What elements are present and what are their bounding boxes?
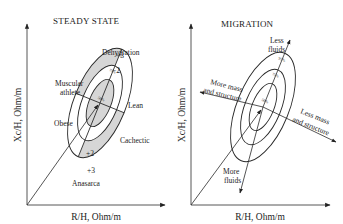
x-axis-label: R/H, Ohm/m bbox=[71, 212, 121, 222]
panel-steady-state: STEADY STATE Xc/H, Ohm/m R/H, Ohm/m 95% … bbox=[13, 16, 165, 222]
label-less-fluids-2: fluids bbox=[268, 45, 285, 54]
x-axis-label: R/H, Ohm/m bbox=[235, 212, 285, 222]
tick-minus2: −2 bbox=[112, 66, 120, 75]
label-cachectic: Cachectic bbox=[120, 136, 150, 145]
panel-migration: MIGRATION Xc/H, Ohm/m R/H, Ohm/m 95% 75%… bbox=[177, 19, 336, 222]
impedance-vector bbox=[191, 110, 261, 205]
label-more-fluids-2: fluids bbox=[224, 176, 241, 185]
tolerance-ellipses: 95% 75% 50% bbox=[37, 23, 164, 183]
label-muscular: Muscular bbox=[55, 79, 84, 88]
panel-title: MIGRATION bbox=[221, 19, 274, 29]
label-more-fluids-1: More bbox=[223, 167, 240, 176]
tick-plus2: +2 bbox=[86, 149, 94, 158]
label-athlete: athlete bbox=[60, 88, 81, 97]
label-anasarca: Anasarca bbox=[72, 179, 101, 188]
label-lean: Lean bbox=[128, 101, 143, 110]
label-less-fluids-1: Less bbox=[270, 36, 284, 45]
y-axis-label: Xc/H, Ohm/m bbox=[177, 87, 187, 142]
label-dehydration: Dehydration bbox=[102, 48, 140, 57]
panel-title: STEADY STATE bbox=[53, 16, 119, 26]
figure: STEADY STATE Xc/H, Ohm/m R/H, Ohm/m 95% … bbox=[0, 0, 343, 224]
tick-plus3: +3 bbox=[87, 166, 95, 175]
label-obese: Obese bbox=[54, 119, 73, 128]
y-axis-label: Xc/H, Ohm/m bbox=[13, 87, 23, 142]
more-fluids-arrow bbox=[240, 107, 263, 193]
